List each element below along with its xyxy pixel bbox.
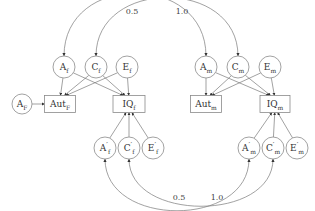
path-arrow-Apm-to-IQm <box>254 113 272 139</box>
latent-factor-Apm: A′m <box>238 137 260 159</box>
node-label-main: Aut <box>194 99 211 109</box>
node-label-main: E <box>264 62 271 72</box>
path-arrow-Epm-to-IQm <box>278 113 293 138</box>
node-label-subscript: F <box>23 104 27 111</box>
node-label-subscript: m <box>278 104 284 111</box>
observed-variable-IQf: IQf <box>113 96 145 113</box>
observed-variable-AutF: AutF <box>45 96 76 113</box>
correlations-layer: 0.51.00.51.0 <box>64 0 273 211</box>
path-arrow-Apf-to-IQf <box>110 113 126 139</box>
correlation-label: 1.0 <box>176 7 189 16</box>
node-label-subscript: F <box>66 104 70 111</box>
path-arrow-Epf-to-IQf <box>132 113 148 139</box>
latent-factor-Am: Am <box>195 56 217 78</box>
observed-variable-Autm: Autm <box>191 96 222 113</box>
latent-factor-Epf: E′f <box>142 137 164 159</box>
node-label-main: E <box>123 62 130 72</box>
correlation-arc-Cpf-Cpm <box>129 159 273 206</box>
correlation-arc-Apf-Apm <box>105 159 249 211</box>
latent-factor-Cf: Cf <box>85 56 107 78</box>
path-arrow-Em-to-IQm <box>271 78 274 96</box>
nodes-layer: AFAutFIQfAfCfEfAmCmEmAutmIQmA′fC′fE′fA′m… <box>12 56 308 159</box>
path-diagram: 0.51.00.51.0 AFAutFIQfAfCfEfAmCmEmAutmIQ… <box>0 0 315 211</box>
latent-factor-Cpf: C′f <box>118 137 140 159</box>
path-arrow-Ef-to-IQf <box>128 78 129 96</box>
node-label-subscript: m <box>211 104 217 111</box>
node-label-subscript: m <box>206 67 212 74</box>
path-arrow-Cm-to-Autm <box>210 76 231 96</box>
latent-factor-Em: Em <box>259 56 281 78</box>
path-arrow-Af-to-AutF <box>60 78 62 96</box>
latent-factor-Ef: Ef <box>116 56 138 78</box>
node-label-subscript: m <box>274 148 280 155</box>
correlation-arc-Cf-Cm <box>96 0 238 56</box>
latent-factor-Apf: A′f <box>94 137 116 159</box>
latent-factor-AF: AF <box>12 94 32 114</box>
node-label-subscript: m <box>298 148 304 155</box>
latent-factor-Cm: Cm <box>227 56 249 78</box>
path-arrow-Cm-to-IQm <box>245 75 270 95</box>
observed-variable-IQm: IQm <box>260 96 290 113</box>
node-label-main: E <box>290 143 297 153</box>
path-arrow-Cpm-to-IQm <box>273 113 274 138</box>
node-label-main: E <box>148 143 155 153</box>
node-label-subscript: m <box>250 148 256 155</box>
node-label-subscript: m <box>239 67 245 74</box>
node-label-subscript: m <box>270 67 276 74</box>
correlation-label: 0.5 <box>126 7 139 16</box>
correlation-label: 1.0 <box>211 193 224 202</box>
node-label-main: IQ <box>267 99 278 109</box>
node-label-main: IQ <box>122 99 133 109</box>
node-label-main: Aut <box>49 99 66 109</box>
latent-factor-Af: Af <box>53 56 75 78</box>
path-arrow-Cf-to-IQf <box>103 76 125 96</box>
latent-factor-Epm: E′m <box>286 137 308 159</box>
latent-factor-Cpm: C′m <box>262 137 284 159</box>
correlation-label: 0.5 <box>173 193 186 202</box>
